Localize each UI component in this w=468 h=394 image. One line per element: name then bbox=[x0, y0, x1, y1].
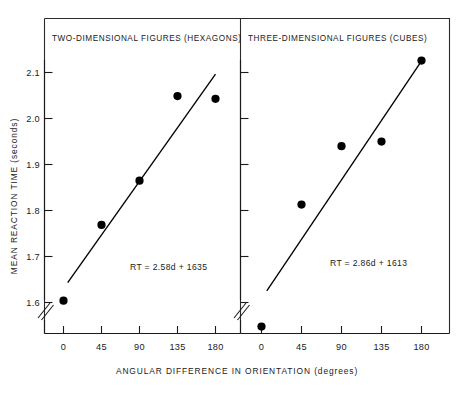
data-point bbox=[173, 92, 181, 100]
x-tick-label-0: 0 bbox=[259, 342, 264, 352]
canvas-background bbox=[0, 0, 468, 394]
left-panel-title: TWO-DIMENSIONAL FIGURES (HEXAGONS) bbox=[52, 34, 241, 43]
data-point bbox=[97, 221, 105, 229]
right-equation-label: RT = 2.86d + 1613 bbox=[330, 258, 407, 268]
x-tick-label-135: 135 bbox=[373, 342, 389, 352]
x-tick-label-180: 180 bbox=[413, 342, 429, 352]
figure-container: TWO-DIMENSIONAL FIGURES (HEXAGONS) bbox=[0, 0, 468, 394]
x-tick-label-0: 0 bbox=[61, 342, 66, 352]
left-equation-label: RT = 2.58d + 1635 bbox=[130, 262, 207, 272]
data-point bbox=[417, 57, 425, 65]
data-point bbox=[211, 95, 219, 103]
data-point bbox=[337, 142, 345, 150]
y-axis-title: MEAN REACTION TIME (seconds) bbox=[9, 118, 19, 274]
data-point bbox=[297, 201, 305, 209]
x-tick-label-45: 45 bbox=[296, 342, 307, 352]
data-point bbox=[59, 297, 67, 305]
y-tick-label-2-0: 2.0 bbox=[26, 114, 40, 124]
y-tick-label-1-8: 1.8 bbox=[26, 206, 40, 216]
y-tick-label-1-9: 1.9 bbox=[26, 160, 40, 170]
y-tick-label-1-6: 1.6 bbox=[26, 298, 40, 308]
data-point bbox=[135, 177, 143, 185]
x-tick-label-180: 180 bbox=[207, 342, 223, 352]
x-axis-title: ANGULAR DIFFERENCE IN ORIENTATION (degre… bbox=[116, 366, 358, 376]
data-point bbox=[257, 323, 265, 331]
x-tick-label-135: 135 bbox=[169, 342, 185, 352]
x-tick-label-90: 90 bbox=[336, 342, 347, 352]
mental-rotation-chart: TWO-DIMENSIONAL FIGURES (HEXAGONS) bbox=[0, 0, 468, 394]
y-tick-label-1-7: 1.7 bbox=[26, 252, 40, 262]
right-panel-title: THREE-DIMENSIONAL FIGURES (CUBES) bbox=[248, 34, 427, 43]
x-tick-label-45: 45 bbox=[96, 342, 107, 352]
y-tick-label-2-1: 2.1 bbox=[26, 68, 40, 78]
x-tick-label-90: 90 bbox=[134, 342, 145, 352]
data-point bbox=[377, 138, 385, 146]
